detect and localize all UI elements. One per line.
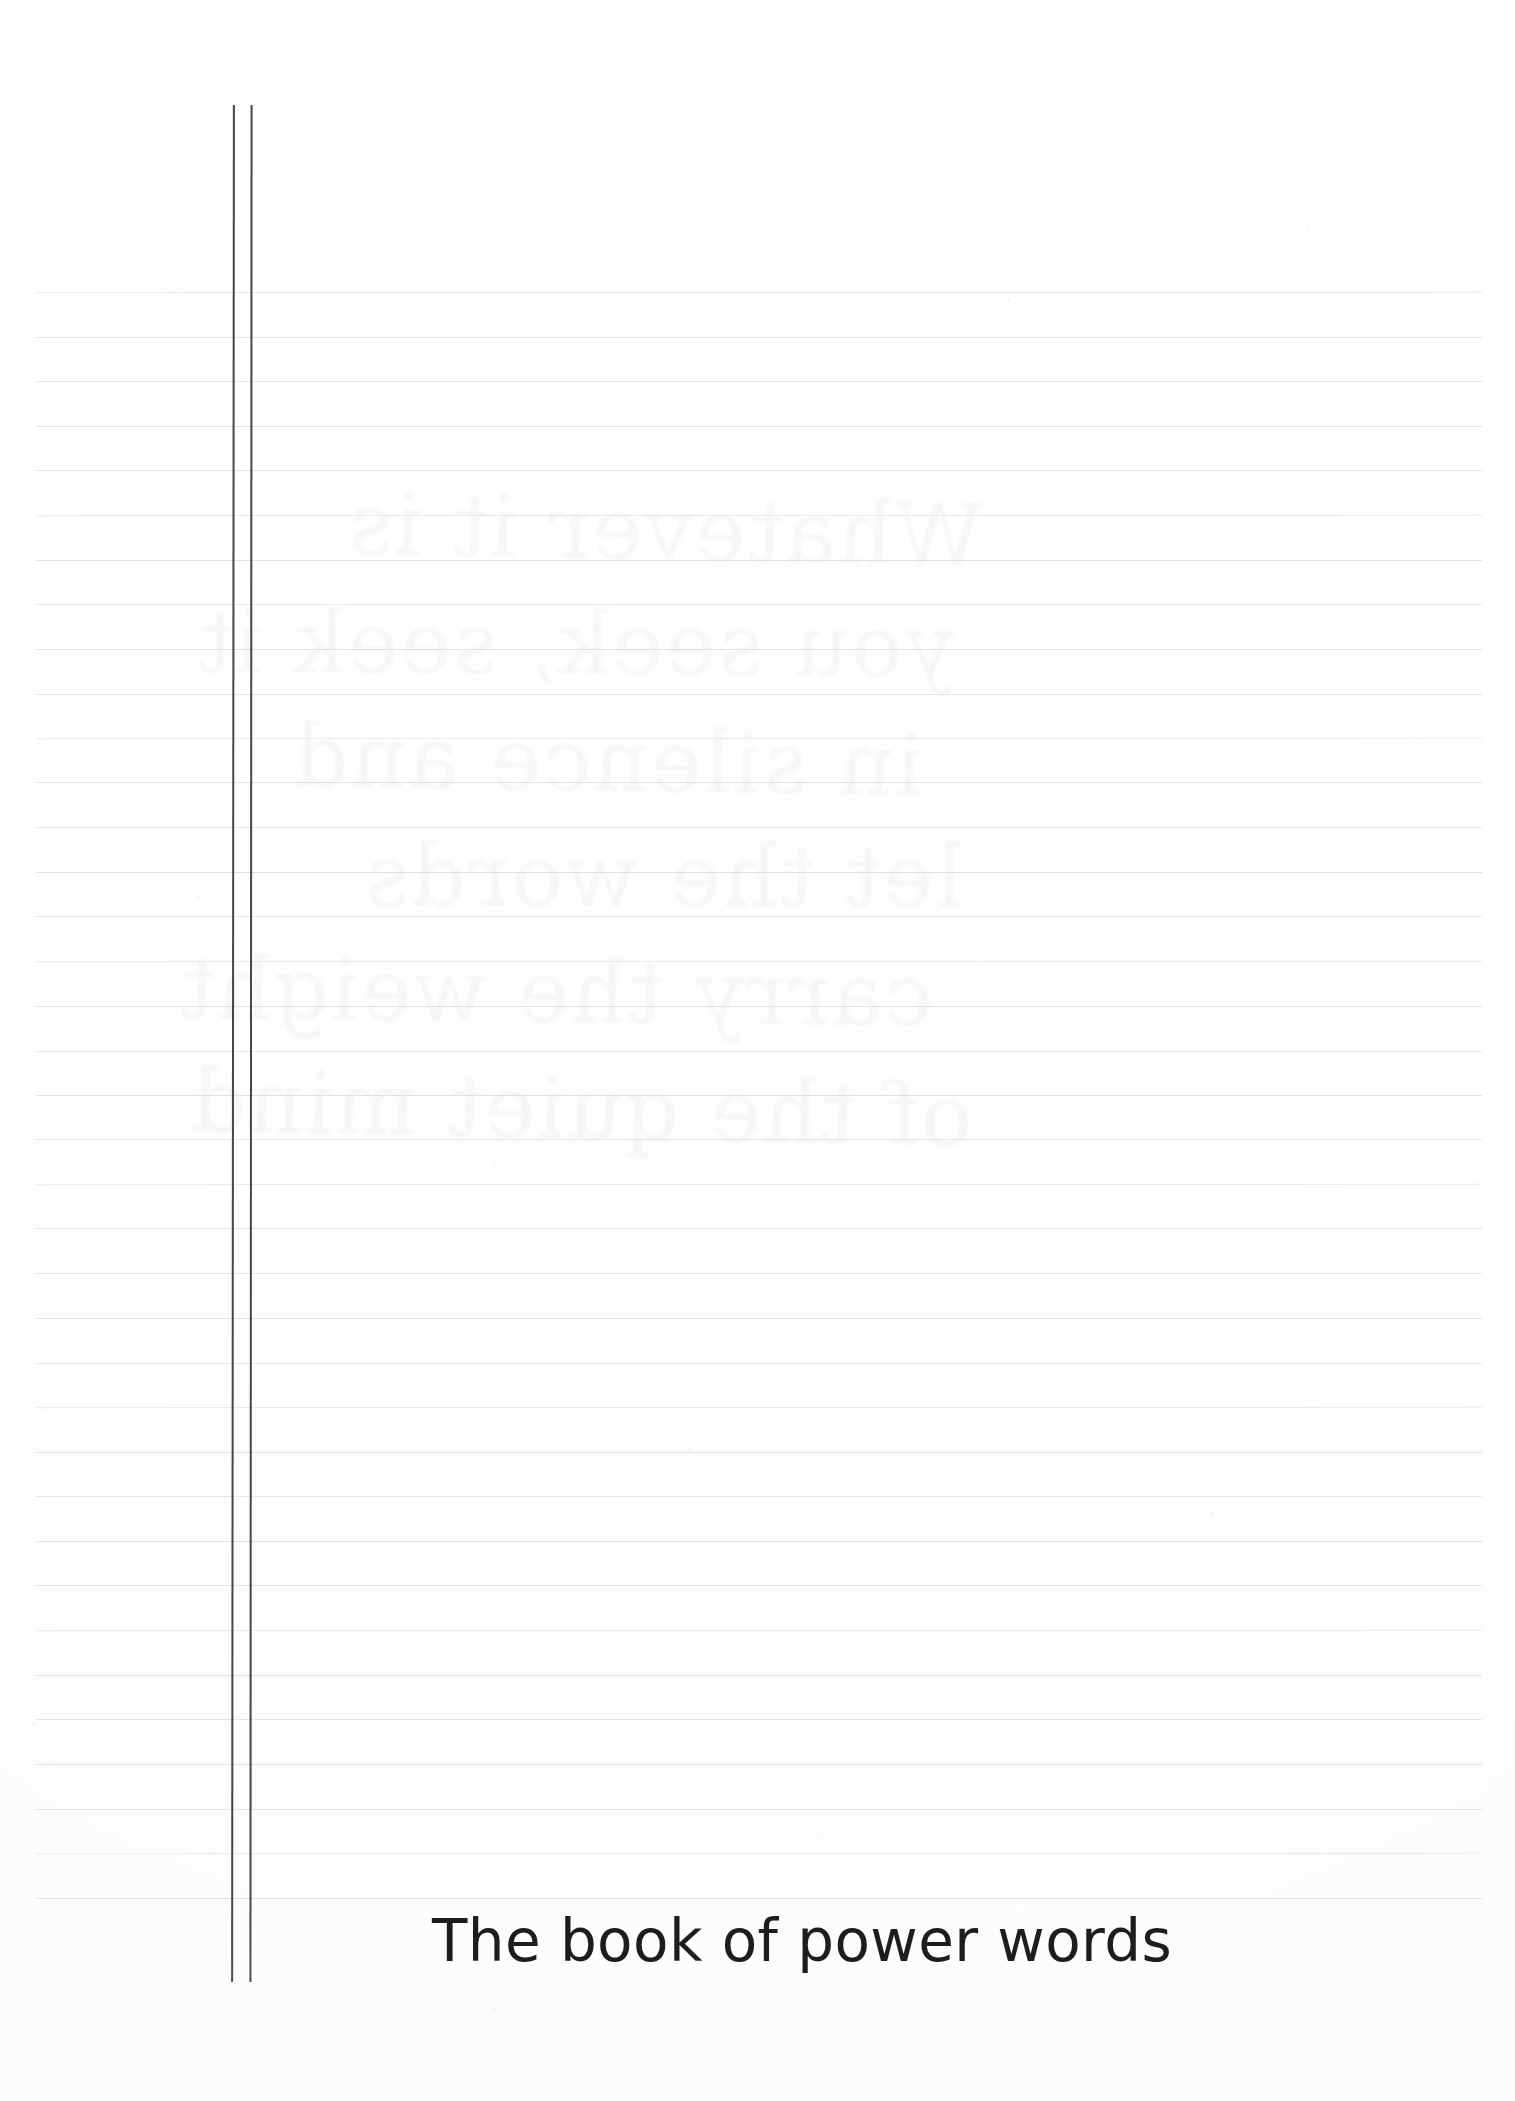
ruled-line [36,1764,1482,1765]
paper-speck [514,492,516,494]
paper-speck [814,1734,816,1736]
ruled-line [36,1719,1482,1720]
paper-speck [196,1644,198,1646]
ruled-line [36,1050,1482,1051]
ruled-line [36,649,1482,650]
ruled-line [36,381,1482,382]
paper-speck [160,542,161,543]
paper-speck [1418,2025,1419,2026]
paper-speck [671,941,673,943]
paper-speck [1374,406,1377,409]
paper-speck [246,816,247,817]
ghost-writing-line: carry the weight [178,930,934,1054]
paper-speck [994,655,996,657]
ruled-line [36,1452,1482,1453]
page-title: The book of power words [432,1907,1172,1975]
paper-speck [657,168,659,170]
paper-speck [899,1210,900,1211]
margin-rule-1 [231,105,234,1982]
paper-speck [492,2008,495,2011]
ruled-line [36,1585,1482,1586]
paper-speck [46,720,47,721]
ruled-line [36,1897,1482,1898]
paper-speck [1351,2090,1353,2092]
paper-speck [1325,2027,1328,2030]
paper-speck [608,839,610,841]
ruled-line [36,470,1482,471]
paper-speck [329,1482,330,1483]
ruled-line [36,693,1482,694]
paper-speck [262,176,263,177]
ruled-line [36,1095,1482,1096]
paper-speck [629,742,631,744]
paper-speck [1172,1940,1174,1942]
paper-speck [1280,1694,1282,1696]
ruled-line [36,1853,1482,1854]
paper-speck [823,1835,825,1837]
ruled-line [36,1318,1482,1319]
ruled-line [36,336,1482,337]
paper-speck [594,1543,596,1545]
ghost-writing-line: Whatever it is [182,462,985,593]
ghost-writing-line: let the words [179,818,963,935]
paper-speck [847,1394,850,1397]
paper-speck [880,1730,881,1731]
paper-speck [588,2069,591,2072]
paper-speck [1007,299,1010,302]
notebook-page: Whatever it isyou seek, seek itin silenc… [0,0,1515,2101]
ruled-line [36,827,1482,828]
paper-speck [305,2079,306,2080]
paper-speck [494,1161,497,1164]
ruled-line [36,916,1482,917]
ruled-line [36,1496,1482,1497]
paper-speck [196,896,199,899]
paper-speck [1465,730,1466,731]
ruled-line [36,1139,1482,1140]
paper-speck [25,1931,28,1934]
ruled-line [36,292,1482,293]
paper-speck [188,1597,191,1600]
ghost-writing-line: you seek, seek it [181,584,953,705]
ruled-line [36,560,1482,561]
ruled-line [36,1407,1482,1408]
ghost-writing-bleedthrough: Whatever it isyou seek, seek itin silenc… [176,466,984,1171]
paper-speck [1432,1285,1434,1287]
paper-speck [1306,227,1309,230]
paper-speck [1250,1265,1252,1267]
paper-speck [1109,1979,1111,1981]
paper-speck [278,63,281,66]
ruled-line [36,515,1482,516]
paper-speck [577,1491,578,1492]
ruled-line [36,1184,1482,1185]
ghost-writing-line: of the quiet mind [176,1043,974,1174]
ruled-line [36,426,1482,427]
paper-speck [1211,1512,1214,1515]
paper-speck [693,2009,696,2012]
paper-speck [790,1286,791,1287]
ruled-line [36,1363,1482,1364]
ruled-line [36,738,1482,739]
ruled-line [36,1675,1482,1676]
paper-speck [450,967,451,968]
paper-speck [702,563,704,565]
ruled-line [36,1273,1482,1274]
paper-speck [33,1723,36,1726]
paper-speck [983,963,985,965]
paper-speck [625,865,627,867]
paper-speck [978,1080,980,1082]
paper-speck [123,922,125,924]
paper-speck [73,418,75,420]
ruled-line [36,872,1482,873]
paper-speck [367,1991,369,1993]
paper-speck [1065,1772,1067,1774]
paper-speck [546,691,548,693]
paper-speck [780,1163,781,1164]
paper-speck [1372,753,1375,756]
paper-speck [8,839,11,842]
paper-speck [689,436,691,438]
ruled-line [36,1540,1482,1541]
paper-speck [689,1448,691,1450]
ruled-line [36,1809,1482,1810]
ruled-line [36,1228,1482,1229]
ruled-line [36,782,1482,783]
